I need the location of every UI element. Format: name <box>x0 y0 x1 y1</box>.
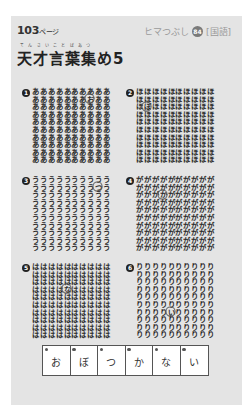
puzzle-number-badge: 1 <box>22 89 30 97</box>
character-cell: は <box>79 331 87 339</box>
puzzle-6: 6 りりりりりりりりりりりりりりりりりりりりりりりりりりりりりりりりりりりりりり… <box>126 263 224 343</box>
character-grid: りりりりりりりりりりりりりりりりりりりりりりりりりりりりりりりりりりりりりりりり… <box>136 263 214 339</box>
character-cell: あ <box>48 156 56 164</box>
character-cell: あ <box>94 156 102 164</box>
answer-char: お <box>43 354 70 369</box>
puzzle-number-badge: 4 <box>126 177 134 185</box>
character-cell: あ <box>87 156 95 164</box>
series-number-badge: 84 <box>192 26 203 37</box>
character-cell: り <box>152 331 160 339</box>
puzzle-number-badge: 6 <box>126 264 134 272</box>
answer-box-1: お <box>43 346 71 375</box>
answer-box-3: つ <box>98 346 126 375</box>
character-grid: ほほほほほほほほほほほほほほほほほほほほほぼほほほほほほほほほほほほほほほほほほ… <box>136 88 214 164</box>
page-title: 天才言葉集め5 <box>17 47 124 68</box>
answer-box-5: な <box>153 346 181 375</box>
character-cell: う <box>40 244 48 252</box>
character-cell: あ <box>79 156 87 164</box>
answer-char: な <box>153 354 180 369</box>
character-cell: う <box>55 244 63 252</box>
character-cell: ほ <box>136 156 144 164</box>
puzzle-number-badge: 2 <box>126 89 134 97</box>
character-cell: あ <box>71 156 79 164</box>
puzzle-5: 5 ははははははははははははははははははははははははははははははははははなははは… <box>22 263 120 343</box>
answer-char: ぼ <box>71 354 98 369</box>
answer-char: い <box>181 354 209 369</box>
puzzle-number-badge: 3 <box>22 177 30 185</box>
character-cell: う <box>63 244 71 252</box>
character-cell: が <box>136 244 144 252</box>
character-cell: が <box>159 244 167 252</box>
character-cell: は <box>63 331 71 339</box>
answer-boxes: お ぼ つ か な い <box>42 345 209 376</box>
character-cell: は <box>55 331 63 339</box>
character-cell: あ <box>40 156 48 164</box>
character-cell: り <box>144 331 152 339</box>
character-cell: り <box>183 331 191 339</box>
character-cell: り <box>159 331 167 339</box>
character-cell: ほ <box>198 156 206 164</box>
character-cell: が <box>152 244 160 252</box>
answer-char: か <box>126 354 153 369</box>
character-cell: あ <box>102 156 110 164</box>
character-cell: う <box>87 244 95 252</box>
character-cell: う <box>94 244 102 252</box>
answer-index-dot <box>182 348 186 352</box>
character-grid: がががががががががががががががががががががががかがががががががががががががががが… <box>136 176 214 252</box>
answer-index-dot <box>72 348 76 352</box>
puzzle-2: 2 ほほほほほほほほほほほほほほほほほほほほほぼほほほほほほほほほほほほほほほほ… <box>126 88 224 168</box>
character-cell: は <box>94 331 102 339</box>
character-cell: が <box>167 244 175 252</box>
character-cell: う <box>102 244 110 252</box>
character-cell: う <box>32 244 40 252</box>
page-number: 103ページ <box>17 24 59 37</box>
answer-index-dot <box>45 348 49 352</box>
puzzle-1: 1 あああああああああああああああああおああああああああああああああああああああ… <box>22 88 120 168</box>
character-cell: は <box>102 331 110 339</box>
character-cell: は <box>40 331 48 339</box>
character-cell: は <box>32 331 40 339</box>
character-cell: あ <box>55 156 63 164</box>
character-cell: り <box>136 331 144 339</box>
character-grid: あああああああああああああああああおああああああああああああああああああああああ… <box>32 88 110 164</box>
character-cell: が <box>198 244 206 252</box>
subject-label: [国語] <box>206 25 231 38</box>
character-cell: り <box>206 331 214 339</box>
character-cell: ほ <box>175 156 183 164</box>
character-cell: が <box>206 244 214 252</box>
character-cell: は <box>71 331 79 339</box>
puzzle-4: 4 がががががががががががががががががががががががかがががががががががががががが… <box>126 176 224 256</box>
character-cell: う <box>71 244 79 252</box>
page-number-suffix: ページ <box>39 28 59 36</box>
character-cell: が <box>144 244 152 252</box>
puzzle-3: 3 ううううううううううううううううううつううううううううううううううううううう… <box>22 176 120 256</box>
answer-index-dot <box>155 348 159 352</box>
character-cell: ほ <box>167 156 175 164</box>
character-cell: う <box>79 244 87 252</box>
answer-box-4: か <box>126 346 154 375</box>
series-label: ヒマつぶし 84 [国語] <box>144 25 231 38</box>
series-name: ヒマつぶし <box>144 25 189 38</box>
character-grid: ははははははははははははははははははははははははははははははははははなははははは… <box>32 263 110 339</box>
character-cell: ほ <box>159 156 167 164</box>
character-cell: ほ <box>191 156 199 164</box>
character-cell: ほ <box>206 156 214 164</box>
character-cell: は <box>48 331 56 339</box>
character-cell: り <box>167 331 175 339</box>
character-cell: り <box>198 331 206 339</box>
character-cell: う <box>48 244 56 252</box>
answer-index-dot <box>100 348 104 352</box>
character-cell: が <box>191 244 199 252</box>
answer-box-2: ぼ <box>71 346 99 375</box>
character-cell: あ <box>63 156 71 164</box>
character-cell: が <box>183 244 191 252</box>
character-cell: が <box>175 244 183 252</box>
page-number-value: 103 <box>17 24 39 37</box>
answer-index-dot <box>127 348 131 352</box>
puzzle-number-badge: 5 <box>22 264 30 272</box>
character-cell: り <box>175 331 183 339</box>
character-grid: ううううううううううううううううううつううううううううううううううううううううう… <box>32 176 110 252</box>
character-cell: あ <box>32 156 40 164</box>
answer-box-6: い <box>181 346 209 375</box>
answer-char: つ <box>98 354 125 369</box>
